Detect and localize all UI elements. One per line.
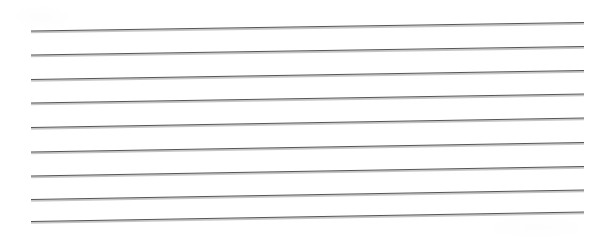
rule-line-shadow — [31, 48, 584, 57]
rule-line — [31, 143, 584, 153]
rule-line-shadow — [31, 72, 584, 81]
rule-line — [31, 167, 584, 177]
scanned-page — [0, 0, 601, 244]
ruled-lines-group — [0, 0, 601, 244]
rule-line — [31, 23, 584, 32]
rule-line — [31, 190, 584, 200]
rule-line — [31, 71, 584, 80]
rule-line-shadow — [31, 119, 584, 129]
rule-line — [31, 212, 584, 222]
rule-line-shadow — [31, 191, 584, 201]
rule-line — [31, 118, 584, 128]
rule-line — [31, 94, 584, 103]
rule-line-shadow — [31, 95, 584, 104]
rule-line-shadow — [31, 168, 584, 178]
rule-line-shadow — [31, 144, 584, 154]
rule-line-shadow — [31, 213, 584, 223]
rule-line — [31, 47, 584, 56]
rule-line-shadow — [31, 24, 584, 33]
